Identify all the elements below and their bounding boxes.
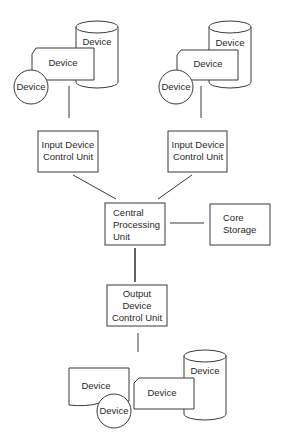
control-unit-label-line2: Control Unit (173, 151, 224, 162)
disk-device-icon: Device (97, 394, 131, 428)
connector-line (158, 175, 192, 199)
input-device-control-unit-right: Input Device Control Unit (168, 131, 227, 172)
drum-device-label: Device (82, 36, 111, 47)
connector-line (73, 175, 116, 199)
input-device-group-right: Device Device Device (159, 21, 251, 118)
input-device-group-left: Device Device Device (14, 21, 118, 118)
output-cu-label-line1: Output (123, 288, 152, 299)
input-device-control-unit-left: Input Device Control Unit (38, 131, 98, 172)
output-device-group: Device Device Device Device (69, 350, 226, 428)
card-device-label: Device (193, 58, 222, 69)
control-unit-label-line1: Input Device (172, 139, 225, 150)
cpu-label-line1: Central (113, 207, 144, 218)
drum-device-label: Device (215, 37, 244, 48)
diagram-canvas: Device Device Device Device Device Devic… (0, 0, 285, 446)
central-processing-unit: Central Processing Unit (105, 203, 165, 245)
cpu-label-line3: Unit (113, 231, 130, 242)
card-device-label: Device (48, 57, 77, 68)
output-cu-label-line2: Device (122, 300, 151, 311)
core-storage: Core Storage (210, 204, 270, 245)
disk-device-label: Device (99, 405, 128, 416)
output-device-control-unit: Output Device Control Unit (107, 285, 167, 326)
drum-device-label: Device (190, 365, 219, 376)
card-device-icon: Device (134, 378, 194, 409)
storage-label-line2: Storage (223, 224, 256, 235)
disk-device-icon: Device (14, 70, 48, 104)
document-device-label: Device (81, 380, 110, 391)
control-unit-label-line1: Input Device (42, 139, 95, 150)
output-cu-label-line3: Control Unit (112, 312, 163, 323)
storage-label-line1: Core (223, 212, 244, 223)
card-device-label: Device (147, 387, 176, 398)
disk-device-icon: Device (159, 70, 193, 104)
control-unit-label-line2: Control Unit (43, 151, 94, 162)
cpu-label-line2: Processing (113, 219, 160, 230)
disk-device-label: Device (161, 81, 190, 92)
disk-device-label: Device (16, 81, 45, 92)
